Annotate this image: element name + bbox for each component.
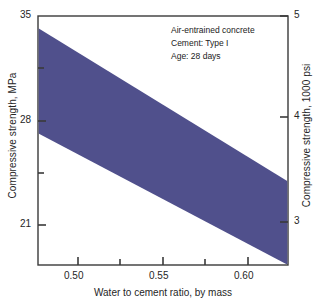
annotation-line-2: Cement: Type I: [171, 37, 228, 50]
y-right-tick-label-5: 5: [294, 9, 300, 20]
y-axis-left-title: Compressive strength, MPa: [7, 36, 18, 236]
y-left-tick-label-28: 28: [20, 114, 31, 125]
x-tick-label-055: 0.55: [149, 270, 168, 281]
x-tick-label-050: 0.50: [64, 270, 83, 281]
y-left-tick-label-21: 21: [20, 218, 31, 229]
y-left-tick-label-35: 35: [20, 9, 31, 20]
y-right-tick-label-3: 3: [294, 215, 300, 226]
chart-figure: 35 28 21 5 4 3 0.50 0.55 0.60 Compressiv…: [0, 0, 318, 308]
x-tick-label-060: 0.60: [234, 270, 253, 281]
chart-canvas: [0, 0, 318, 308]
annotation-line-1: Air-entrained concrete: [171, 24, 255, 37]
x-axis-title: Water to cement ratio, by mass: [38, 287, 288, 298]
annotation-line-3: Age: 28 days: [171, 50, 221, 63]
y-axis-right-title: Compressive strength, 1000 psi: [301, 36, 312, 236]
y-right-tick-label-4: 4: [294, 110, 300, 121]
